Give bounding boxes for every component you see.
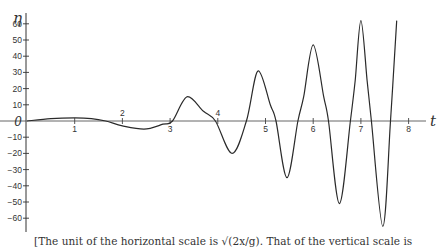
x-tick-label: 6 <box>311 124 316 134</box>
x-tick-label: 8 <box>406 124 411 134</box>
figure-caption: [The unit of the horizontal scale is √(2… <box>34 235 412 247</box>
y-tick-label: 30 <box>13 67 23 77</box>
y-tick-label: −40 <box>8 181 23 191</box>
y-tick-label: 0 <box>14 115 22 129</box>
x-tick-label: 2 <box>120 108 125 118</box>
y-tick-label: 10 <box>13 100 23 110</box>
y-tick-label: 20 <box>13 84 23 94</box>
x-tick-label: 7 <box>359 124 364 134</box>
y-tick-label: 50 <box>13 35 23 45</box>
wave-elevation-chart: 6050403020100−10−20−30−40−50−60 12345678… <box>0 0 443 252</box>
x-tick-label: 5 <box>263 124 268 134</box>
y-tick-label: −10 <box>8 132 23 142</box>
x-tick-label: 1 <box>72 124 77 134</box>
y-tick-label: −50 <box>8 197 23 207</box>
y-tick-label: −20 <box>8 148 23 158</box>
y-tick-label: 40 <box>13 51 23 61</box>
x-axis-label: t <box>430 112 437 130</box>
y-tick-label: −30 <box>8 165 23 175</box>
x-tick-label: 3 <box>168 124 173 134</box>
eta-curve <box>27 21 397 227</box>
x-tick-label: 4 <box>215 108 220 118</box>
y-axis-label: η <box>13 9 22 27</box>
y-tick-label: −60 <box>8 213 23 223</box>
